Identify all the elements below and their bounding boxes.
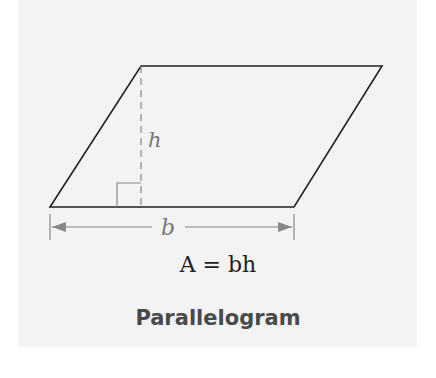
- arrowhead-right-icon: [278, 222, 292, 232]
- right-angle-marker: [117, 183, 141, 207]
- parallelogram-shape: [50, 66, 382, 207]
- figure-title: Parallelogram: [0, 306, 436, 330]
- arrowhead-left-icon: [52, 222, 66, 232]
- base-label: b: [161, 215, 175, 240]
- area-formula: A = bh: [0, 252, 436, 277]
- height-label: h: [148, 128, 162, 152]
